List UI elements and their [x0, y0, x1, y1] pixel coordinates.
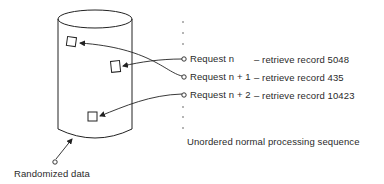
- request-node-0: [182, 57, 186, 61]
- request-label-2: Request n + 2: [190, 89, 251, 100]
- request-node-2: [182, 93, 186, 97]
- request-action-1: – retrieve record 435: [254, 72, 344, 83]
- record-box-435: [110, 61, 120, 73]
- record-box-5048: [66, 36, 76, 46]
- request-action-0: – retrieve record 5048: [254, 54, 349, 65]
- data-cylinder: [58, 10, 132, 138]
- request-label-1: Request n + 1: [190, 71, 251, 82]
- request-label-0: Request n: [190, 53, 234, 64]
- storage-label-node: [53, 160, 57, 164]
- request-node-1: [182, 75, 186, 79]
- storage-label: Randomized data: [14, 168, 90, 179]
- arrow-storage-label: [56, 139, 72, 159]
- sequence-label: Unordered normal processing sequence: [187, 136, 360, 147]
- record-box-10423: [88, 112, 97, 121]
- request-action-2: – retrieve record 10423: [254, 90, 355, 101]
- ellipsis-top: [182, 21, 183, 44]
- arrow-request-n2: [100, 94, 182, 116]
- ellipsis-bottom: [182, 106, 183, 128]
